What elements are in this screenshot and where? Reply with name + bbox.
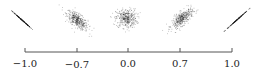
scatter-cluster xyxy=(59,5,95,37)
scatter-cluster xyxy=(162,5,198,34)
scatter-cluster xyxy=(110,7,140,32)
correlation-figure: −1.0 −0.7 0.0 0.7 1.0 xyxy=(0,0,256,76)
scatter-clusters xyxy=(11,5,250,37)
number-line-axis xyxy=(25,48,232,52)
tick-labels: −1.0 −0.7 0.0 0.7 1.0 xyxy=(13,58,240,70)
tick-label: 0.0 xyxy=(120,58,136,69)
scatter-cluster xyxy=(11,10,33,30)
scatter-cluster xyxy=(224,8,251,32)
tick-label: 1.0 xyxy=(224,58,240,69)
tick-label: −1.0 xyxy=(13,58,37,69)
tick-label: 0.7 xyxy=(172,58,188,69)
tick-label: −0.7 xyxy=(65,59,89,70)
